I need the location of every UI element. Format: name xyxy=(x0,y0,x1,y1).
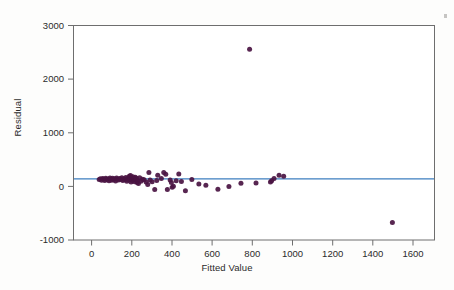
data-point xyxy=(215,187,220,192)
data-point xyxy=(174,178,179,183)
data-point xyxy=(247,47,252,52)
data-point xyxy=(277,173,282,178)
data-point xyxy=(150,179,155,184)
y-tick-label-0: 0 xyxy=(24,181,64,192)
y-tick-label-minus-1000: -1000 xyxy=(18,234,64,245)
data-point xyxy=(154,178,159,183)
y-axis-ticks xyxy=(68,26,74,241)
data-point xyxy=(146,170,151,175)
x-axis-ticks xyxy=(92,240,413,246)
data-point xyxy=(183,188,188,193)
data-point xyxy=(390,220,395,225)
data-point xyxy=(163,172,168,177)
data-point xyxy=(171,184,176,189)
x-tick-label-1600: 1600 xyxy=(393,248,433,259)
data-point xyxy=(165,187,170,192)
x-tick-label-1400: 1400 xyxy=(353,248,393,259)
y-tick-label-2000: 2000 xyxy=(24,73,64,84)
x-tick-label-800: 800 xyxy=(232,248,272,259)
x-tick-label-1000: 1000 xyxy=(273,248,313,259)
x-tick-label-600: 600 xyxy=(192,248,232,259)
plot-canvas xyxy=(0,0,454,290)
y-axis-title: Residual xyxy=(12,81,23,155)
data-point xyxy=(281,174,286,179)
data-point xyxy=(159,176,164,181)
data-point xyxy=(145,182,150,187)
y-tick-label-1000: 1000 xyxy=(24,127,64,138)
x-tick-label-200: 200 xyxy=(112,248,152,259)
x-axis-title: Fitted Value xyxy=(0,262,454,273)
x-tick-label-400: 400 xyxy=(152,248,192,259)
data-point xyxy=(179,179,184,184)
x-tick-label-0: 0 xyxy=(72,248,112,259)
data-point xyxy=(226,184,231,189)
data-point xyxy=(203,183,208,188)
data-point xyxy=(189,177,194,182)
data-point xyxy=(152,187,157,192)
data-point xyxy=(272,176,277,181)
data-point xyxy=(254,180,259,185)
scan-artifact-speck xyxy=(444,14,447,18)
residual-plot-figure: 3000 2000 1000 0 -1000 0 200 400 600 800… xyxy=(0,0,454,290)
data-point xyxy=(238,181,243,186)
data-point xyxy=(196,181,201,186)
plot-frame xyxy=(74,26,435,241)
data-point xyxy=(176,171,181,176)
x-tick-label-1200: 1200 xyxy=(313,248,353,259)
plot-area xyxy=(74,26,435,241)
y-tick-label-3000: 3000 xyxy=(24,20,64,31)
